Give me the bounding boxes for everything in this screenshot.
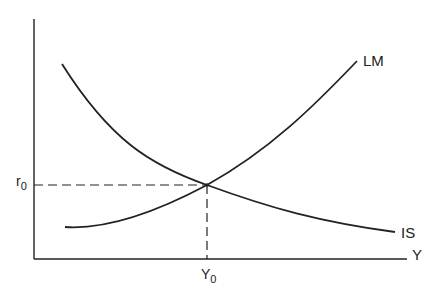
is-lm-diagram [0,0,434,292]
y0-label: Y0 [201,267,216,281]
lm-label: LM [363,53,384,68]
equilibrium-point [205,183,209,187]
lm-curve [65,61,357,227]
is-curve [62,64,395,232]
is-label: IS [401,225,415,240]
x-axis-label: Y [412,247,422,262]
r0-label-sub: 0 [21,180,27,192]
r0-label: r0 [16,174,27,188]
y0-label-sub: 0 [210,273,216,285]
y0-label-main: Y [201,266,210,282]
r0-label-main: r [16,173,21,189]
